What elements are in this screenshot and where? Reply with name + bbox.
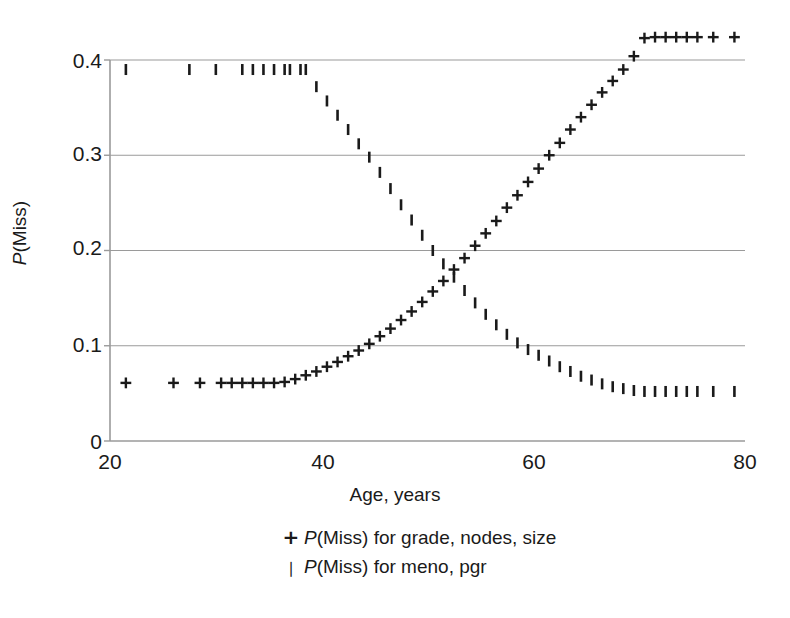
legend: + P(Miss) for grade, nodes, size ❘ P(Mis…	[278, 527, 608, 585]
series-meno-pgr-markers	[125, 64, 736, 397]
legend-label-italic-p: P	[304, 527, 317, 548]
y-tick-label-0.1: 0.1	[32, 334, 102, 355]
y-tick-label-0.3: 0.3	[32, 143, 102, 164]
y-axis-title-italic-p: P	[9, 253, 30, 266]
x-axis-title: Age, years	[0, 484, 790, 506]
legend-label-italic-p: P	[304, 556, 317, 577]
x-tick-label-40: 40	[283, 451, 363, 472]
plot-area	[0, 0, 790, 618]
y-axis-title-rest: (Miss)	[9, 201, 30, 253]
y-axis-tick-marks	[104, 60, 110, 441]
chart-figure: 0.4 0.3 0.2 0.1 0 20 40 60 80 Age, years…	[0, 0, 790, 618]
plus-marker-icon: +	[278, 527, 304, 547]
bar-marker-icon: ❘	[278, 558, 304, 578]
legend-item-label: P(Miss) for grade, nodes, size	[304, 527, 556, 549]
x-tick-label-60: 60	[494, 451, 574, 472]
series-grade-nodes-size-markers	[120, 32, 739, 389]
x-tick-label-80: 80	[705, 451, 785, 472]
y-tick-label-0.2: 0.2	[32, 237, 102, 258]
legend-label-rest: (Miss) for grade, nodes, size	[317, 527, 557, 548]
legend-label-rest: (Miss) for meno, pgr	[317, 556, 487, 577]
x-tick-label-20: 20	[70, 451, 150, 472]
y-tick-label-0: 0	[32, 431, 102, 452]
y-tick-label-0.4: 0.4	[32, 50, 102, 71]
y-axis-tick-labels: 0.4 0.3 0.2 0.1 0	[28, 0, 102, 618]
legend-item-label: P(Miss) for meno, pgr	[304, 556, 487, 578]
legend-item-grade-nodes-size: + P(Miss) for grade, nodes, size	[278, 527, 608, 556]
y-axis-title: P(Miss)	[9, 173, 31, 293]
legend-item-meno-pgr: ❘ P(Miss) for meno, pgr	[278, 556, 608, 585]
